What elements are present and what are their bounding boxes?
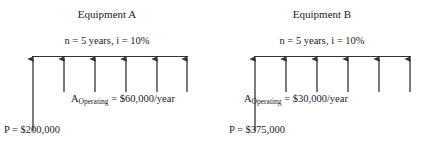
annuity-subscript-equipment-a: Operating	[79, 97, 109, 106]
annuity-value-equipment-b: $30,000/year	[293, 93, 348, 104]
annuity-label-equipment-a: AOperating = $60,000/year	[71, 93, 175, 108]
panel-equipment-b: Equipment B n = 5 years, i = 10% AOperat…	[215, 0, 429, 146]
annuity-symbol-equipment-b: A	[244, 93, 252, 104]
cash-flow-figure: Equipment A n = 5 years, i = 10% AOperat…	[0, 0, 429, 146]
present-worth-label-equipment-b: P = $375,000	[229, 124, 285, 136]
annuity-label-equipment-b: AOperating = $30,000/year	[244, 93, 348, 108]
annuity-symbol-equipment-a: A	[71, 93, 79, 104]
annuity-value-equipment-a: $60,000/year	[120, 93, 175, 104]
panel-equipment-a: Equipment A n = 5 years, i = 10% AOperat…	[0, 0, 214, 146]
annuity-subscript-equipment-b: Operating	[252, 97, 282, 106]
annuity-equals-equipment-a: =	[109, 93, 120, 104]
present-worth-label-equipment-a: P = $200,000	[4, 124, 60, 136]
annuity-equals-equipment-b: =	[282, 93, 293, 104]
